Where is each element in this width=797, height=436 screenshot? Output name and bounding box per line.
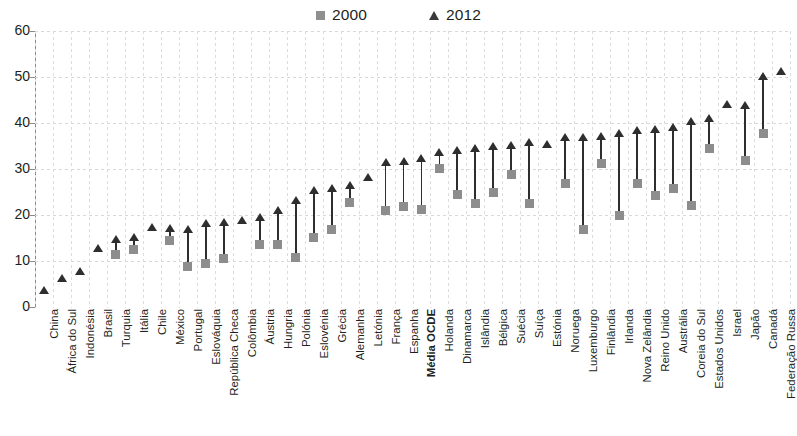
marker-2012 [506,141,516,149]
data-column [520,31,538,307]
marker-2000 [183,262,192,271]
marker-2000 [201,259,210,268]
marker-2000 [615,211,624,220]
x-tick-label: Irlanda [624,309,635,344]
marker-2000 [399,202,408,211]
y-tick-40 [29,123,35,124]
legend-label-2000: 2000 [332,6,367,24]
x-tick-label: Espanha [409,309,420,354]
x-tick-label: Islândia [480,309,491,348]
marker-2012 [237,216,247,224]
marker-2000 [327,225,336,234]
connector-line [492,146,494,193]
marker-2000 [417,205,426,214]
data-column [377,31,395,307]
marker-2012 [686,117,696,125]
x-tick-label: Nova Zelândia [642,309,653,382]
y-axis-labels: 0102030405060 [0,0,30,436]
data-column [215,31,233,307]
chart-legend: 2000 2012 [0,2,797,28]
data-column [574,31,592,307]
marker-2000 [759,129,768,138]
marker-2012 [704,114,714,122]
y-tick-30 [29,169,35,170]
x-tick-label: Finlândia [606,309,617,355]
marker-2012 [309,186,319,194]
x-tick-label: Itália [139,309,150,333]
marker-2012 [345,181,355,189]
plot-area [35,31,790,307]
legend-entry-2012: 2012 [429,6,481,24]
data-column [466,31,484,307]
data-column [107,31,125,307]
data-column [700,31,718,307]
marker-2000 [471,199,480,208]
marker-2012 [722,100,732,108]
chart-container: 2000 2012 0102030405060 ChinaÁfrica do S… [0,0,797,436]
marker-2012 [416,154,426,162]
marker-2000 [273,240,282,249]
legend-entry-2000: 2000 [316,6,367,24]
x-tick-label: África do Sul [67,309,78,374]
data-column [161,31,179,307]
x-tick-label: Austrália [678,309,689,353]
connector-line [295,200,297,257]
marker-2012 [93,244,103,252]
marker-2000 [687,201,696,210]
marker-2000 [705,144,714,153]
marker-2000 [111,250,120,259]
data-column [359,31,377,307]
marker-2012 [327,184,337,192]
data-column [682,31,700,307]
marker-2000 [741,156,750,165]
data-column [53,31,71,307]
marker-2012 [129,233,139,241]
data-column [556,31,574,307]
marker-2012 [75,267,85,275]
x-tick-label: Dinamarca [462,309,473,364]
x-tick-label: Portugal [193,309,204,351]
data-column [502,31,520,307]
data-column [592,31,610,307]
connector-line [690,121,692,206]
data-column [341,31,359,307]
x-tick-label: Média OCDE [426,309,437,377]
y-tick-label-40: 40 [4,115,30,129]
connector-line [223,222,225,259]
connector-line [564,137,566,184]
data-column [323,31,341,307]
marker-2012 [147,223,157,231]
connector-line [618,133,620,216]
marker-2012 [740,101,750,109]
marker-2012 [758,72,768,80]
connector-line [187,229,189,267]
x-tick-label: México [175,309,186,345]
y-tick-label-30: 30 [4,161,30,175]
marker-2000 [309,233,318,242]
y-tick-label-0: 0 [4,299,30,313]
x-tick-label: Polónia [301,309,312,347]
marker-2012 [219,218,229,226]
marker-2012 [614,129,624,137]
x-tick-label: Eslovénia [319,309,330,358]
connector-line [672,127,674,189]
data-column [35,31,53,307]
marker-2000 [453,190,462,199]
data-column [395,31,413,307]
marker-2012 [596,132,606,140]
marker-2012 [111,235,121,243]
connector-line [205,223,207,263]
y-tick-50 [29,77,35,78]
marker-2000 [507,170,516,179]
x-tick-label: Canadá [768,309,779,349]
marker-2012 [542,140,552,148]
x-tick-label: Japão [750,309,761,340]
x-tick-label: Reino Unido [660,309,671,372]
data-column [610,31,628,307]
marker-2012 [452,146,462,154]
x-tick-label: Noruega [570,309,581,353]
x-tick-label: China [49,309,60,339]
marker-2012 [57,274,67,282]
x-tick-label: Holanda [444,309,455,351]
marker-2000 [651,191,660,200]
